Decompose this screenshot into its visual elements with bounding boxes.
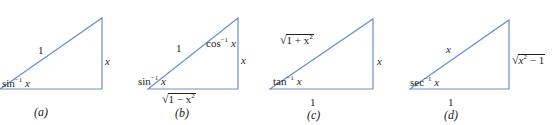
triangle-c-hypotenuse: √1 + x2 <box>280 34 314 46</box>
triangle-c-opposite: x <box>377 56 382 67</box>
triangle-d-opposite: √x2 − 1 <box>512 54 545 66</box>
triangle-b-opposite: x <box>241 55 246 66</box>
triangle-a-opposite: x <box>105 56 110 67</box>
triangle-b-angle-top: cos−1 x <box>206 38 236 49</box>
triangle-b-hypotenuse: 1 <box>176 43 182 54</box>
caption-a: (a) <box>34 106 48 118</box>
caption-d: (d) <box>444 109 458 121</box>
caption-c: (c) <box>307 109 320 121</box>
triangle-b-angle-bottom: sin−1 x <box>138 76 166 87</box>
triangle-d-angle-label: sec−1 x <box>410 77 439 88</box>
triangle-d-adjacent: 1 <box>448 97 454 108</box>
triangle-b-adjacent: √1 − x2 <box>162 93 196 105</box>
triangle-c-adjacent: 1 <box>310 97 316 108</box>
triangle-a-hypotenuse: 1 <box>38 45 44 56</box>
triangle-d-hypotenuse: x <box>446 44 451 55</box>
triangles-drawing <box>0 0 559 125</box>
triangle-a-angle-label: sin−1 x <box>2 78 30 89</box>
caption-b: (b) <box>175 107 189 119</box>
triangle-c-angle-label: tan−1 x <box>273 76 302 87</box>
